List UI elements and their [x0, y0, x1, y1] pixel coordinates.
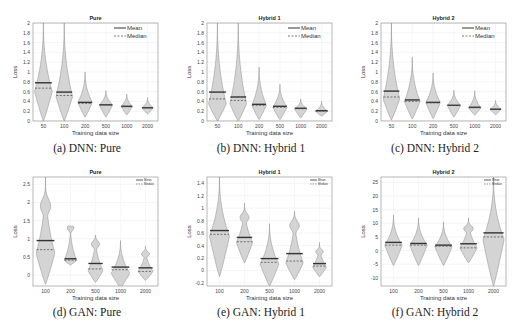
subplot-e: -0.200.20.40.60.811.21.41002005001000200… [174, 168, 348, 336]
x-axis-label: Training data size [72, 130, 120, 136]
y-tick-label: 0.2 [371, 108, 378, 114]
y-tick-label: 0.8 [371, 79, 378, 85]
y-tick-label: 0.8 [197, 218, 204, 224]
y-tick-label: 0.5 [23, 254, 30, 260]
y-tick-label: 1.2 [23, 59, 30, 65]
caption-a: (a) DNN: Pure [0, 142, 174, 154]
y-tick-label: 5 [375, 234, 378, 240]
y-tick-label: 0.4 [197, 98, 204, 104]
y-tick-label: -5 [374, 261, 379, 267]
y-tick-label: 1.6 [371, 40, 378, 46]
y-tick-label: 1.4 [197, 180, 204, 186]
y-tick-label: 0 [27, 118, 30, 124]
y-tick-label: -0.2 [195, 280, 204, 286]
legend-median-label: Median [301, 33, 321, 39]
y-tick-label: 10 [372, 220, 378, 226]
chart-title: Hybrid 2 [432, 169, 454, 175]
y-tick-label: 0.6 [23, 89, 30, 95]
y-tick-label: 0 [201, 267, 204, 273]
y-tick-label: 2.5 [23, 181, 30, 187]
legend-median-label: Median [144, 182, 154, 186]
violin-chart-a: 00.20.40.60.811.21.41.61.825010020050010… [0, 0, 174, 140]
y-tick-label: 1.8 [197, 30, 204, 36]
y-tick-label: 2 [201, 20, 204, 26]
x-axis-label: Training data size [246, 295, 294, 301]
y-tick-label: 0.8 [23, 79, 30, 85]
y-tick-label: 1.2 [197, 193, 204, 199]
legend-median-label: Median [318, 182, 328, 186]
y-tick-label: 1.8 [371, 30, 378, 36]
y-tick-label: 1 [375, 69, 378, 75]
y-tick-label: 1 [201, 69, 204, 75]
y-tick-label: 0.6 [197, 89, 204, 95]
subplot-f: -10-5051015202510020050010002000Hybrid 2… [348, 168, 522, 336]
y-tick-label: 0.8 [197, 79, 204, 85]
y-tick-label: 0 [201, 118, 204, 124]
y-tick-label: 1.8 [23, 30, 30, 36]
y-tick-label: 0.4 [23, 98, 30, 104]
y-tick-label: 15 [372, 207, 378, 213]
y-tick-label: 1.2 [371, 59, 378, 65]
caption-b: (b) DNN: Hybrid 1 [174, 142, 348, 154]
legend-mean-label: Mean [301, 25, 316, 31]
x-axis-label: Training data size [246, 130, 294, 136]
subplot-a: 00.20.40.60.811.21.41.61.825010020050010… [0, 0, 174, 168]
y-axis-label: Loss [186, 66, 192, 79]
y-tick-label: 1.5 [23, 218, 30, 224]
caption-d: (d) GAN: Pure [0, 306, 174, 318]
caption-f: (f) GAN: Hybrid 2 [348, 306, 522, 318]
x-axis-label: Training data size [420, 295, 468, 301]
legend-median-label: Median [492, 182, 502, 186]
legend-median-label: Median [475, 33, 495, 39]
violin-chart-c: 00.20.40.60.811.21.41.61.825010020050010… [348, 0, 522, 140]
legend-mean-label: Mean [127, 25, 142, 31]
subplot-c: 00.20.40.60.811.21.41.61.825010020050010… [348, 0, 522, 168]
y-tick-label: 1.2 [197, 59, 204, 65]
y-axis-label: Loss [360, 225, 366, 238]
y-tick-label: 2 [375, 20, 378, 26]
y-tick-label: 0.4 [371, 98, 378, 104]
x-axis-label: Training data size [72, 295, 120, 301]
y-tick-label: 0.2 [197, 255, 204, 261]
y-tick-label: 1.4 [23, 49, 30, 55]
y-axis-label: Loss [12, 225, 18, 238]
subplot-b: 00.20.40.60.811.21.41.61.825010020050010… [174, 0, 348, 168]
y-tick-label: 1.4 [371, 49, 378, 55]
y-axis-label: Loss [186, 225, 192, 238]
y-tick-label: 1 [27, 69, 30, 75]
legend-mean-label: Mean [475, 25, 490, 31]
y-tick-label: 0 [27, 272, 30, 278]
y-tick-label: 1.6 [23, 40, 30, 46]
subplot-d: 00.511.522.510020050010002000PureTrainin… [0, 168, 174, 336]
caption-c: (c) DNN: Hybrid 2 [348, 142, 522, 154]
y-tick-label: 0.2 [197, 108, 204, 114]
x-axis-label: Training data size [420, 130, 468, 136]
y-tick-label: 25 [372, 179, 378, 185]
violin-chart-f: -10-5051015202510020050010002000Hybrid 2… [348, 168, 522, 306]
y-axis-label: Loss [360, 66, 366, 79]
y-tick-label: 0.6 [197, 230, 204, 236]
violin-chart-e: -0.200.20.40.60.811.21.41002005001000200… [174, 168, 348, 306]
y-tick-label: 1 [27, 236, 30, 242]
caption-e: (e) GAN: Hybrid 1 [174, 306, 348, 318]
legend-median-label: Median [127, 33, 147, 39]
chart-title: Hybrid 1 [258, 169, 280, 175]
y-tick-label: 20 [372, 193, 378, 199]
y-tick-label: 1.4 [197, 49, 204, 55]
y-tick-label: 0 [375, 248, 378, 254]
y-tick-label: 1 [201, 205, 204, 211]
y-axis-label: Loss [12, 66, 18, 79]
chart-title: Pure [89, 15, 101, 21]
y-tick-label: -10 [371, 275, 378, 281]
y-tick-label: 2 [27, 20, 30, 26]
y-tick-label: 0.6 [371, 89, 378, 95]
chart-title: Pure [89, 169, 101, 175]
y-tick-label: 2 [27, 199, 30, 205]
y-tick-label: 1.6 [197, 40, 204, 46]
chart-title: Hybrid 2 [432, 15, 454, 21]
violin-chart-b: 00.20.40.60.811.21.41.61.825010020050010… [174, 0, 348, 140]
y-tick-label: 0.2 [23, 108, 30, 114]
y-tick-label: 0.4 [197, 243, 204, 249]
y-tick-label: 0 [375, 118, 378, 124]
chart-title: Hybrid 1 [258, 15, 280, 21]
